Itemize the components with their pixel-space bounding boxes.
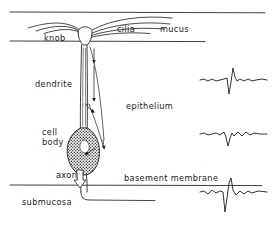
label-submucosa: submucosa [22,197,72,207]
label-axon: axon [56,170,77,180]
label-cell-body-2: body [42,137,64,147]
label-cell-body-1: cell [42,127,58,137]
basement-membrane-line [10,185,262,186]
epithelium-top-line [10,41,205,42]
olfactory-neuron-diagram: knob cilia mucus dendrite epithelium cel… [0,0,272,228]
label-epithelium: epithelium [126,101,173,111]
waveform-trace-1 [200,68,267,94]
olfactory-knob [78,27,92,45]
waveform-trace-3 [200,178,267,212]
label-dendrite: dendrite [35,79,72,89]
waveform-trace-2 [200,132,267,146]
label-basement-membrane: basement membrane [124,173,218,183]
feedback-arrow [103,140,104,148]
label-knob: knob [44,33,66,43]
axon-right-edge [87,175,88,192]
label-cilia: cilia [117,24,135,34]
mucus-surface-line [10,12,265,13]
axon-bend [81,192,155,201]
label-mucus: mucus [160,24,189,34]
dendrite-left-edge [80,45,81,128]
